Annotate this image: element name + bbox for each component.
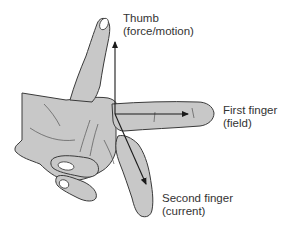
thumb-shape bbox=[70, 18, 110, 102]
first-finger-label: First finger (field) bbox=[223, 104, 277, 130]
diagram-canvas: Thumb (force/motion) First finger (field… bbox=[0, 0, 288, 229]
thumb-label-subtitle: (force/motion) bbox=[123, 25, 194, 38]
thumb-label: Thumb (force/motion) bbox=[123, 12, 194, 38]
thumb-label-title: Thumb bbox=[123, 12, 194, 25]
second-finger-shape bbox=[116, 135, 153, 216]
first-finger-label-subtitle: (field) bbox=[223, 117, 277, 130]
second-finger-label-title: Second finger bbox=[162, 192, 233, 205]
first-finger-shape bbox=[112, 102, 214, 131]
second-finger-label-subtitle: (current) bbox=[162, 205, 233, 218]
curled-finger-2 bbox=[56, 175, 97, 201]
first-finger-label-title: First finger bbox=[223, 104, 277, 117]
second-finger-label: Second finger (current) bbox=[162, 192, 233, 218]
